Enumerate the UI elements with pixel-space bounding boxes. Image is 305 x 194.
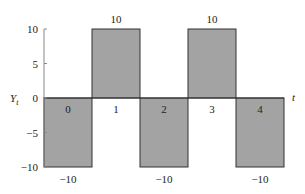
- bar-value-label: −10: [251, 173, 269, 185]
- bar-value-label: −10: [155, 173, 173, 185]
- y-tick-label: 5: [33, 58, 39, 70]
- x-tick-label: 2: [161, 103, 167, 115]
- bar-chart: 1050−5−10 0−101102−103104−10 Yt t: [0, 0, 305, 194]
- bar-value-label: 10: [111, 13, 123, 25]
- y-tick-label: −5: [26, 127, 38, 139]
- x-tick-label: 3: [209, 103, 215, 115]
- y-tick-label: 0: [33, 92, 39, 104]
- y-tick-label: 10: [27, 23, 39, 35]
- x-tick-label: 4: [257, 103, 263, 115]
- bar-value-label: 10: [207, 13, 219, 25]
- x-axis-label: t: [292, 91, 296, 103]
- y-ticks: 1050−5−10: [21, 23, 47, 173]
- x-tick-label: 0: [65, 103, 71, 115]
- bar-3: [188, 29, 236, 98]
- y-axis-label: Yt: [10, 92, 19, 107]
- x-tick-label: 1: [113, 103, 119, 115]
- bar-value-label: −10: [59, 173, 77, 185]
- bar-1: [92, 29, 140, 98]
- y-tick-label: −10: [21, 161, 39, 173]
